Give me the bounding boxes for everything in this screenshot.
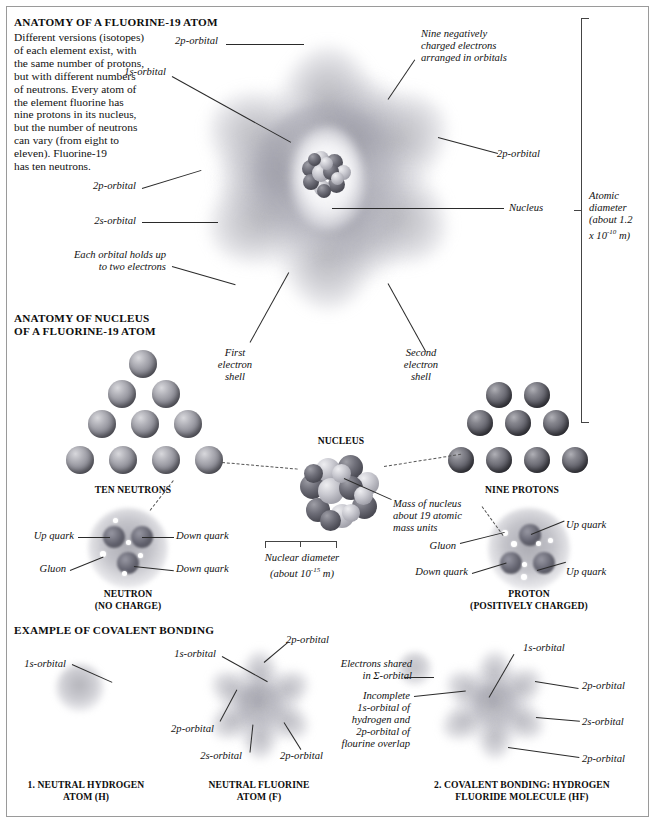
caption-nucleus: NUCLEUS <box>305 435 377 447</box>
label-f-2s: 2s-orbital <box>176 750 242 762</box>
leader-shared <box>404 677 434 678</box>
label-proton-up-quark-2: Up quark <box>566 566 636 578</box>
label-h-1s-orbital: 1s-orbital <box>4 658 66 670</box>
nuclear-diameter-tick <box>300 541 301 547</box>
nucleus-section-title: ANATOMY OF NUCLEUS OF A FLUORINE-19 ATOM <box>14 312 244 337</box>
leader-nucleus <box>332 208 504 209</box>
leader-2s <box>142 222 218 223</box>
label-nucleus: Nucleus <box>509 202 569 214</box>
label-neutron-down-quark-1: Down quark <box>176 530 252 542</box>
caption-nine-protons: NINE PROTONS <box>467 484 577 496</box>
label-2p-orbital-left: 2p-orbital <box>56 180 136 192</box>
label-second-electron-shell: Second electron shell <box>390 347 452 383</box>
nuclear-diameter-scale <box>265 541 337 542</box>
atomic-diameter-tick <box>574 210 582 211</box>
proton-gluon-5 <box>522 562 527 567</box>
caption-neutral-fluorine: NEUTRAL FLUORINE ATOM (F) <box>200 779 318 802</box>
label-neutron-gluon: Gluon <box>14 563 66 575</box>
neutron-gluon-2 <box>126 540 131 545</box>
label-each-orbital: Each orbital holds up to two electrons <box>18 249 166 273</box>
proton-illustration <box>488 508 570 590</box>
proton-gluon-2 <box>511 541 517 547</box>
label-mass-of-nucleus: Mass of nucleus about 19 atomic mass uni… <box>393 498 503 534</box>
hf-molecule-orbitals <box>430 650 560 760</box>
label-2p-orbital-right: 2p-orbital <box>497 148 567 160</box>
atom-nucleus-cluster <box>298 148 358 206</box>
label-neutron-down-quark-2: Down quark <box>176 563 252 575</box>
nucleus-cluster-detail <box>298 452 384 534</box>
atomic-diameter-bracket <box>581 18 582 423</box>
label-electrons-shared: Electrons shared in Σ-orbital <box>300 658 412 682</box>
label-incomplete-overlap: Incomplete 1s-orbital of hydrogen and 2p… <box>296 690 410 750</box>
hydrogen-1s-orbital <box>56 664 104 712</box>
label-hf-2p-bottom: 2p-orbital <box>582 753 652 765</box>
atomic-diameter-exponent: -10 <box>607 228 616 236</box>
caption-proton: PROTON (POSITIVELY CHARGED) <box>468 588 590 611</box>
neutron-gluon-4 <box>138 553 143 558</box>
nuclear-diameter-exponent: -15 <box>311 566 320 574</box>
caption-ten-neutrons: TEN NEUTRONS <box>78 484 188 496</box>
neutron-illustration <box>88 508 168 588</box>
leader-n-up <box>78 537 110 538</box>
leader-n-down1 <box>142 537 174 538</box>
label-2s-orbital: 2s-orbital <box>56 215 136 227</box>
proton-gluon-3 <box>536 541 541 546</box>
covalent-section-title: EXAMPLE OF COVALENT BONDING <box>14 624 294 637</box>
neutron-gluon-1 <box>113 518 118 523</box>
label-f-1s-orbital: 1s-orbital <box>150 648 216 660</box>
proton-gluon-6 <box>521 574 527 580</box>
label-proton-gluon: Gluon <box>400 540 456 552</box>
label-nine-electrons: Nine negatively charged electrons arrang… <box>421 28 551 64</box>
fluorine-atom-illustration <box>148 18 508 338</box>
label-2p-orbital-top: 2p-orbital <box>150 35 218 47</box>
label-1s-orbital: 1s-orbital <box>100 66 166 78</box>
caption-neutron: NEUTRON (NO CHARGE) <box>78 588 178 611</box>
label-hf-2p-right: 2p-orbital <box>582 680 652 692</box>
label-atomic-diameter: Atomic diameter (about 1.2 x 10-10 m) <box>589 190 651 242</box>
label-hf-2s: 2s-orbital <box>582 716 652 728</box>
label-proton-up-quark-1: Up quark <box>566 519 636 531</box>
diagram-page: ANATOMY OF A FLUORINE-19 ATOM Different … <box>0 0 656 824</box>
label-f-2p-bottom: 2p-orbital <box>280 750 350 762</box>
label-f-2p-left: 2p-orbital <box>140 723 214 735</box>
label-first-electron-shell: First electron shell <box>205 347 265 383</box>
neutron-gluon-5 <box>122 571 127 576</box>
leader-2p-top <box>226 44 304 45</box>
caption-neutral-hydrogen: 1. NEUTRAL HYDROGEN ATOM (H) <box>26 779 146 802</box>
label-nuclear-diameter: Nuclear diameter (about 10-15 m) <box>246 552 358 580</box>
proton-gluon-4 <box>548 538 553 543</box>
label-hf-1s: 1s-orbital <box>523 642 589 654</box>
label-f-2p-top: 2p-orbital <box>286 634 356 646</box>
label-proton-down-quark: Down quark <box>392 566 468 578</box>
caption-hf-molecule: 2. COVALENT BONDING: HYDROGEN FLUORIDE M… <box>408 779 636 802</box>
label-neutron-up-quark: Up quark <box>8 530 74 542</box>
neutron-down-quark-2 <box>117 552 139 574</box>
